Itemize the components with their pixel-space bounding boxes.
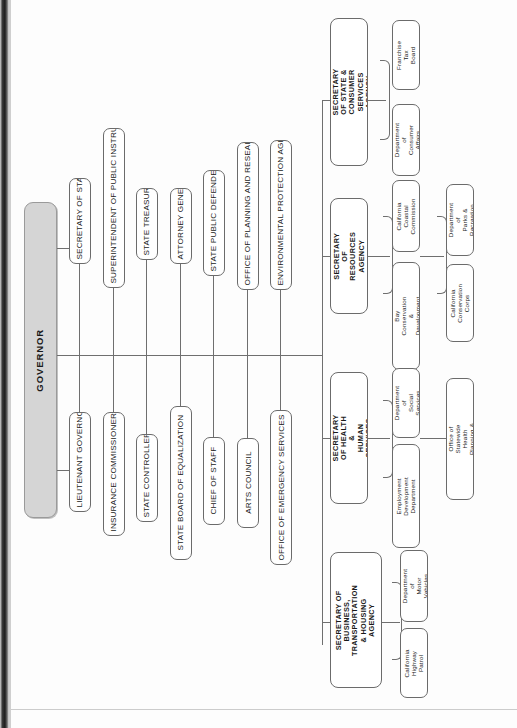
- node-state-board-of-equalization-label: STATE BOARD OF EQUALIZATION: [176, 415, 185, 551]
- node-california-conservation-corps[interactable]: California Conservation Corps: [446, 264, 474, 342]
- main-spine: [57, 355, 323, 356]
- node-lieutenant-governor-label: LIEUTENANT GOVERNOR: [75, 416, 84, 508]
- node-bay-conservation-and-development-commission-label: Bay Conservation & Development Commissio…: [394, 297, 418, 336]
- node-department-of-consumer-affairs[interactable]: Department of Consumer Affairs: [392, 104, 420, 176]
- node-state-treasurer[interactable]: STATE TREASURER: [136, 188, 158, 260]
- connector-office-of-emergency-services: [280, 355, 281, 410]
- node-secretary-of-state-and-consumer-services-agency-label: SECRETARY OF STATE & CONSUMER SERVICES A…: [332, 69, 366, 116]
- connector-state-treasurer: [146, 260, 147, 355]
- connector-state-controller: [146, 355, 147, 434]
- scan-edge-artifact: [0, 0, 9, 728]
- agency-3-stub: [322, 438, 330, 439]
- node-secretary-of-resources-agency[interactable]: SECRETARY OF RESOURCES AGENCY: [330, 198, 368, 314]
- node-bay-conservation-and-development-commission[interactable]: Bay Conservation & Development Commissio…: [392, 262, 420, 370]
- agency-2-stub: [322, 256, 330, 257]
- node-department-of-social-services-label: Department of Social Services: [394, 386, 418, 420]
- node-secretary-of-state-and-consumer-services-agency[interactable]: SECRETARY OF STATE & CONSUMER SERVICES A…: [330, 18, 368, 166]
- node-secretary-of-health-and-human-services-agency-label: SECRETARY OF HEALTH & HUMAN SERVICES AGE…: [332, 415, 366, 462]
- node-secretary-of-health-and-human-services-agency[interactable]: SECRETARY OF HEALTH & HUMAN SERVICES AGE…: [330, 372, 368, 504]
- node-state-treasurer-label: STATE TREASURER: [142, 192, 151, 256]
- connector-environmental-protection-agency: [280, 290, 281, 355]
- node-lieutenant-governor[interactable]: LIEUTENANT GOVERNOR: [69, 412, 91, 512]
- node-arts-council[interactable]: ARTS COUNCIL: [237, 438, 259, 528]
- node-department-of-motor-vehicles-label: Department of Motor Vehicles: [402, 569, 426, 603]
- connector-state-public-defender: [213, 276, 214, 355]
- connector-state-board-of-equalization: [180, 355, 181, 406]
- org-chart-page: GOVERNOR SECRETARY OF STATE SUPERINTENDE…: [0, 0, 517, 728]
- node-secretary-of-state[interactable]: SECRETARY OF STATE: [69, 178, 91, 264]
- node-superintendent-of-public-instruction-label: SUPERINTENDENT OF PUBLIC INSTRUCTION: [109, 132, 118, 284]
- node-california-coastal-commission-label: California Coastal Commission: [396, 198, 417, 234]
- connector-lieutenant-governor: [79, 355, 80, 412]
- node-state-public-defender-label: STATE PUBLIC DEFENDER: [209, 174, 218, 272]
- node-secretary-of-resources-agency-label: SECRETARY OF RESOURCES AGENCY: [333, 232, 366, 281]
- scan-edge-highlight: [9, 0, 11, 728]
- agency-3-grandchild-stem: [420, 438, 446, 439]
- node-secretary-of-business-transportation-and-housing-agency[interactable]: SECRETARY OF BUSINESS, TRANSPORTATION & …: [330, 552, 382, 688]
- node-attorney-general-label: ATTORNEY GENERAL: [176, 192, 185, 260]
- node-attorney-general[interactable]: ATTORNEY GENERAL: [170, 188, 192, 264]
- node-office-of-emergency-services-label: OFFICE OF EMERGENCY SERVICES: [276, 414, 285, 560]
- connector-chief-of-staff: [213, 355, 214, 437]
- connector-office-of-planning-and-research: [247, 290, 248, 355]
- connector-attorney-general: [180, 264, 181, 355]
- connector-superintendent-of-public-instruction: [113, 288, 114, 355]
- node-secretary-of-state-label: SECRETARY OF STATE: [75, 182, 84, 260]
- node-insurance-commissioner[interactable]: INSURANCE COMMISSIONER: [103, 412, 125, 536]
- governor-branch-top: [57, 248, 69, 249]
- node-secretary-of-business-transportation-and-housing-agency-label: SECRETARY OF BUSINESS, TRANSPORTATION & …: [336, 584, 377, 655]
- node-state-board-of-equalization[interactable]: STATE BOARD OF EQUALIZATION: [170, 406, 192, 560]
- node-department-of-social-services[interactable]: Department of Social Services: [392, 368, 420, 438]
- node-department-of-parks-and-recreation-label: Department of Parks & Recreation: [448, 203, 472, 237]
- node-office-of-emergency-services[interactable]: OFFICE OF EMERGENCY SERVICES: [270, 410, 292, 565]
- agency-1-stub: [322, 100, 330, 101]
- node-california-coastal-commission[interactable]: California Coastal Commission: [392, 180, 420, 252]
- node-chief-of-staff[interactable]: CHIEF OF STAFF: [203, 437, 225, 525]
- node-department-of-consumer-affairs-label: Department of Consumer Affairs: [394, 123, 418, 157]
- agency-trunk: [322, 100, 323, 645]
- node-chief-of-staff-label: CHIEF OF STAFF: [209, 447, 218, 515]
- node-environmental-protection-agency[interactable]: ENVIRONMENTAL PROTECTION AGENCY: [270, 140, 292, 290]
- agency-1-child-elbow: [380, 60, 390, 140]
- node-department-of-parks-and-recreation[interactable]: Department of Parks & Recreation: [446, 184, 474, 256]
- node-department-of-motor-vehicles[interactable]: Department of Motor Vehicles: [400, 550, 428, 622]
- node-employment-development-department[interactable]: Employment Development Department: [392, 444, 420, 548]
- node-franchise-tax-board[interactable]: Franchise Tax Board: [392, 20, 420, 90]
- node-office-of-planning-and-research-label: OFFICE OF PLANNING AND RESEARCH: [243, 146, 252, 286]
- governor-branch-bottom: [57, 470, 69, 471]
- node-arts-council-label: ARTS COUNCIL: [243, 452, 252, 515]
- node-state-controller-label: STATE CONTROLLER: [142, 438, 151, 518]
- connector-secretary-of-state: [79, 264, 80, 355]
- node-office-of-statewide-health-planning-and-development-label: Office of Statewide Health Planning & De…: [448, 420, 472, 459]
- connector-insurance-commissioner: [113, 355, 114, 412]
- node-california-conservation-corps-label: California Conservation Corps: [450, 284, 471, 323]
- agency-4-stub: [322, 622, 330, 623]
- node-california-highway-patrol[interactable]: California Highway Patrol: [400, 628, 428, 698]
- node-state-controller[interactable]: STATE CONTROLLER: [136, 434, 158, 522]
- connector-arts-council: [247, 355, 248, 438]
- node-state-public-defender[interactable]: STATE PUBLIC DEFENDER: [203, 170, 225, 276]
- node-office-of-planning-and-research[interactable]: OFFICE OF PLANNING AND RESEARCH: [237, 142, 259, 290]
- node-franchise-tax-board-label: Franchise Tax Board: [396, 41, 417, 70]
- node-office-of-statewide-health-planning-and-development[interactable]: Office of Statewide Health Planning & De…: [446, 378, 474, 500]
- node-environmental-protection-agency-label: ENVIRONMENTAL PROTECTION AGENCY: [276, 144, 285, 286]
- node-superintendent-of-public-instruction[interactable]: SUPERINTENDENT OF PUBLIC INSTRUCTION: [103, 128, 125, 288]
- node-governor[interactable]: GOVERNOR: [24, 202, 57, 518]
- node-california-highway-patrol-label: California Highway Patrol: [404, 649, 425, 677]
- node-governor-label: GOVERNOR: [35, 329, 46, 392]
- node-employment-development-department-label: Employment Development Department: [396, 477, 417, 516]
- page-edge-line: [11, 709, 517, 710]
- node-insurance-commissioner-label: INSURANCE COMMISSIONER: [109, 416, 118, 532]
